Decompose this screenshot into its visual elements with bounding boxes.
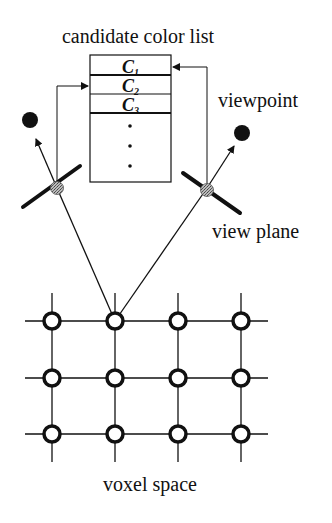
left-viewpoint-dot bbox=[22, 112, 38, 128]
voxel-space-label: voxel space bbox=[103, 473, 197, 496]
right-view-arrow bbox=[207, 146, 234, 188]
candidate-color-list-title: candidate color list bbox=[62, 25, 215, 47]
view-plane-label: view plane bbox=[212, 220, 299, 243]
right-projection-arrow bbox=[173, 67, 207, 188]
candidate-color-list: C1 C2 C3 bbox=[90, 55, 171, 182]
left-view-arrow bbox=[36, 139, 57, 188]
diagram-canvas: candidate color list C1 C2 C3 viewpoint … bbox=[0, 0, 332, 523]
right-viewpoint-dot bbox=[234, 125, 250, 141]
left-ray bbox=[57, 188, 115, 321]
left-projection-point bbox=[51, 182, 64, 195]
viewpoint-label: viewpoint bbox=[218, 89, 298, 112]
right-ray bbox=[115, 188, 207, 321]
right-projection-point bbox=[201, 184, 214, 197]
